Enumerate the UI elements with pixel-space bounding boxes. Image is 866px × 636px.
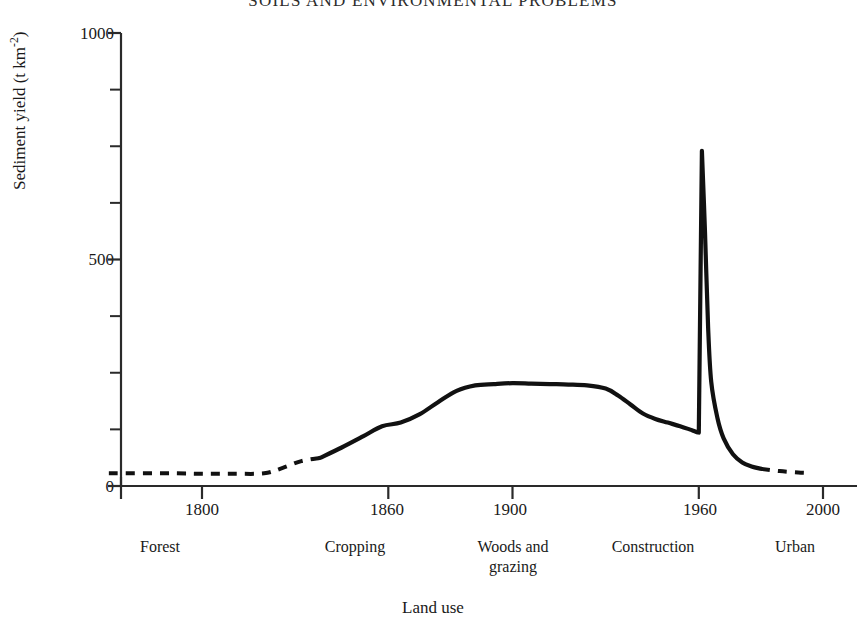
data-series <box>109 151 811 474</box>
axes <box>108 33 857 499</box>
x-axis-title: Land use <box>0 598 866 618</box>
x-tick-label-1860: 1860 <box>347 500 427 520</box>
x-tick-label-2000: 2000 <box>783 500 863 520</box>
series-line-post-record <box>761 469 811 473</box>
y-axis-title-base: Sediment yield (t km <box>10 47 29 190</box>
y-axis-title: Sediment yield (t km-2) <box>8 0 30 190</box>
category-label-construction: Construction <box>578 537 728 557</box>
y-tick-label-0: 0 <box>44 477 114 497</box>
y-tick-label-1000: 1000 <box>44 24 114 44</box>
x-tick-label-1800: 1800 <box>162 500 242 520</box>
category-label-forest: Forest <box>100 537 220 557</box>
sediment-yield-chart: Sediment yield (t km-2) Land use 1000 50… <box>0 0 866 636</box>
x-tick-label-1960: 1960 <box>660 500 740 520</box>
y-axis-title-tail: ) <box>10 32 29 38</box>
category-label-urban: Urban <box>740 537 850 557</box>
y-axis-title-exponent: -2 <box>8 37 21 47</box>
y-tick-label-500: 500 <box>44 250 114 270</box>
category-label-woods-and-grazing: Woods and grazing <box>448 537 578 577</box>
category-label-cropping: Cropping <box>290 537 420 557</box>
x-tick-label-1900: 1900 <box>470 500 550 520</box>
series-line-record <box>320 151 761 469</box>
series-line-pre-record <box>109 458 320 474</box>
